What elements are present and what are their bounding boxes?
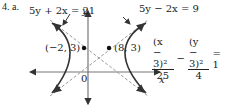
pointer-arrow-2	[123, 17, 130, 24]
asymptotes	[50, 20, 148, 96]
fraction-1-numerator: (x − 3)²	[152, 36, 174, 70]
fraction-2-denominator: 4	[196, 70, 202, 81]
problem-number: 4. a.	[2, 2, 19, 12]
fraction-1-denominator: 25	[156, 70, 169, 81]
equation-rhs: = 1	[212, 48, 222, 70]
asymptote-2-equation: 5y − 2x = 9	[139, 4, 199, 14]
y-axis-label: y	[82, 6, 88, 16]
fraction-2-numerator: (y − 3)²	[188, 36, 210, 70]
vertex-left-label: (−2, 3)	[45, 43, 80, 53]
hyperbola-equation: (x − 3)² 25 − (y − 3)² 4 = 1	[152, 36, 225, 81]
origin-label: 0	[81, 74, 87, 84]
minus-operator: −	[177, 53, 185, 64]
fraction-1: (x − 3)² 25	[152, 36, 174, 81]
fraction-2: (y − 3)² 4	[188, 36, 210, 81]
vertex-right-dot	[107, 46, 111, 50]
vertex-right-label: (8, 3)	[114, 43, 141, 53]
hyperbola-right-branch	[125, 23, 146, 93]
vertex-left-dot	[82, 46, 86, 50]
